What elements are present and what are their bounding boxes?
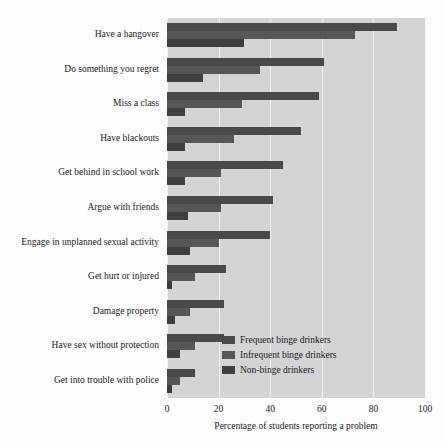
legend-item: Frequent binge drinkers xyxy=(222,332,422,347)
category-label: Have sex without protection xyxy=(52,340,159,351)
legend-label: Infrequent binge drinkers xyxy=(240,350,337,360)
legend-item: Non-binge drinkers xyxy=(222,362,422,377)
bar xyxy=(167,143,185,151)
bar xyxy=(167,239,219,247)
bar xyxy=(167,74,203,82)
x-axis-line xyxy=(167,398,425,399)
category-label: Get into trouble with police xyxy=(54,375,159,386)
gridline-100 xyxy=(425,18,426,398)
y-axis-category-labels: Have a hangoverDo something you regretMi… xyxy=(0,18,163,398)
bar xyxy=(167,212,188,220)
x-tick-label: 60 xyxy=(317,404,327,414)
legend-swatch-icon xyxy=(222,351,235,359)
x-tick-label: 40 xyxy=(265,404,275,414)
bar-group xyxy=(167,265,425,289)
category-label: Engage in unplanned sexual activity xyxy=(21,237,159,248)
bar xyxy=(167,342,195,350)
bar xyxy=(167,135,234,143)
bar xyxy=(167,100,242,108)
bar xyxy=(167,369,195,377)
bar xyxy=(167,177,185,185)
bar xyxy=(167,281,172,289)
bar xyxy=(167,169,221,177)
bar xyxy=(167,66,260,74)
chart-legend: Frequent binge drinkersInfrequent binge … xyxy=(222,332,422,377)
chart-figure: Have a hangoverDo something you regretMi… xyxy=(0,0,445,447)
bar xyxy=(167,308,190,316)
legend-swatch-icon xyxy=(222,366,235,374)
bar xyxy=(167,316,175,324)
bar xyxy=(167,350,180,358)
x-tick-label: 100 xyxy=(418,404,432,414)
category-label: Have a hangover xyxy=(95,29,159,40)
category-label: Do something you regret xyxy=(64,64,159,75)
bar xyxy=(167,23,397,31)
category-label: Get hurt or injured xyxy=(88,271,159,282)
legend-swatch-icon xyxy=(222,336,235,344)
bar xyxy=(167,334,224,342)
legend-label: Frequent binge drinkers xyxy=(240,335,331,345)
bar xyxy=(167,385,172,393)
bar xyxy=(167,196,273,204)
bar xyxy=(167,39,244,47)
bar-group xyxy=(167,127,425,151)
legend-item: Infrequent binge drinkers xyxy=(222,347,422,362)
bar xyxy=(167,108,185,116)
x-tick-label: 20 xyxy=(214,404,224,414)
legend-label: Non-binge drinkers xyxy=(240,365,314,375)
category-label: Have blackouts xyxy=(100,133,159,144)
bar-group xyxy=(167,300,425,324)
bar xyxy=(167,127,301,135)
bar xyxy=(167,58,324,66)
bar xyxy=(167,161,283,169)
x-axis-title: Percentage of students reporting a probl… xyxy=(167,421,425,431)
bar xyxy=(167,247,190,255)
category-label: Miss a class xyxy=(113,98,159,109)
bar xyxy=(167,31,355,39)
category-label: Argue with friends xyxy=(87,202,159,213)
bar xyxy=(167,204,221,212)
category-label: Get behind in school work xyxy=(58,167,159,178)
bar xyxy=(167,273,195,281)
bar-group xyxy=(167,161,425,185)
category-label: Damage property xyxy=(93,306,159,317)
bar-group xyxy=(167,92,425,116)
bar xyxy=(167,92,319,100)
bar-group xyxy=(167,196,425,220)
bar-group xyxy=(167,231,425,255)
bar xyxy=(167,300,224,308)
bar-group xyxy=(167,23,425,47)
bar xyxy=(167,231,270,239)
bar-group xyxy=(167,58,425,82)
x-tick-label: 80 xyxy=(369,404,379,414)
bar xyxy=(167,265,226,273)
bar xyxy=(167,377,180,385)
x-tick-label: 0 xyxy=(165,404,170,414)
